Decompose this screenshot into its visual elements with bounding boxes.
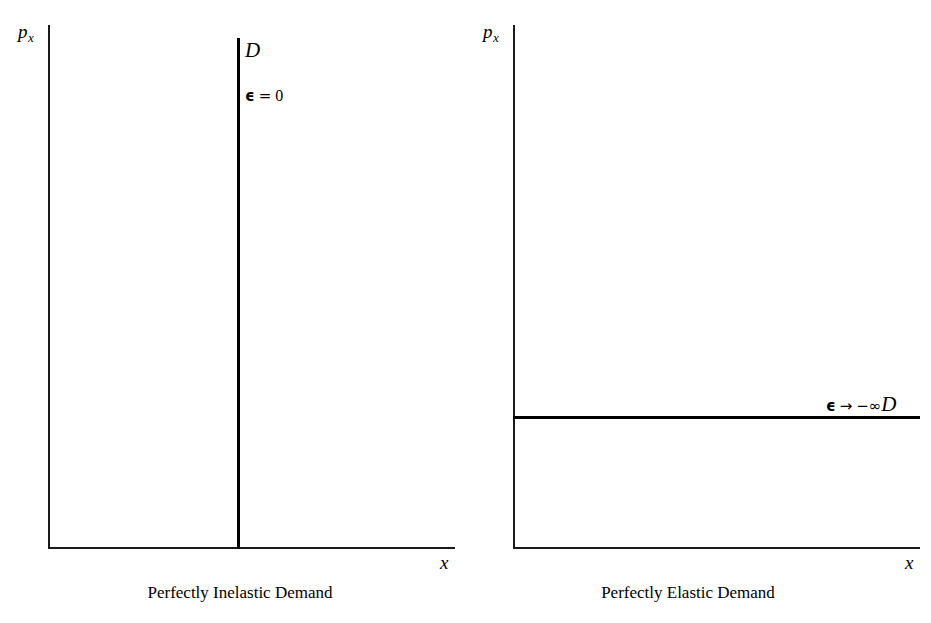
y-axis-label-subscript: x xyxy=(28,30,34,45)
elasticity-value: −∞ xyxy=(856,397,881,415)
x-axis-elastic xyxy=(513,547,920,549)
caption-inelastic: Perfectly Inelastic Demand xyxy=(0,583,480,603)
y-axis-label-base: p xyxy=(483,21,493,42)
panel-perfectly-inelastic: px x D ϵ = 0 Perfectly Inelastic Demand xyxy=(0,0,480,623)
demand-curve-horizontal xyxy=(513,416,920,419)
epsilon-symbol: ϵ xyxy=(245,87,255,105)
y-axis-elastic xyxy=(513,25,515,549)
elasticity-operator: = xyxy=(259,87,272,105)
epsilon-symbol: ϵ xyxy=(826,397,836,415)
demand-curve-vertical xyxy=(237,38,240,549)
x-axis-inelastic xyxy=(48,547,455,549)
elasticity-annotation-elastic: ϵ → −∞D xyxy=(826,394,897,415)
x-axis-label-inelastic: x xyxy=(440,553,448,572)
x-axis-label-elastic: x xyxy=(905,553,913,572)
x-axis-label-text: x xyxy=(905,552,913,573)
y-axis-label-elastic: px xyxy=(483,22,499,44)
demand-elasticity-figure: px x D ϵ = 0 Perfectly Inelastic Demand … xyxy=(0,0,931,623)
panel-perfectly-elastic: px x Perfectly Elastic Demand xyxy=(465,0,931,623)
elasticity-operator: → xyxy=(840,397,853,415)
demand-curve-label-inelastic: D xyxy=(245,40,260,61)
elasticity-annotation-inelastic: ϵ = 0 xyxy=(245,88,283,104)
y-axis-label-subscript: x xyxy=(493,30,499,45)
y-axis-label-base: p xyxy=(18,21,28,42)
y-axis-inelastic xyxy=(48,25,50,549)
y-axis-label-inelastic: px xyxy=(18,22,34,44)
caption-elastic: Perfectly Elastic Demand xyxy=(455,583,921,603)
elasticity-value: 0 xyxy=(275,87,283,104)
demand-curve-label-elastic: D xyxy=(881,392,896,416)
